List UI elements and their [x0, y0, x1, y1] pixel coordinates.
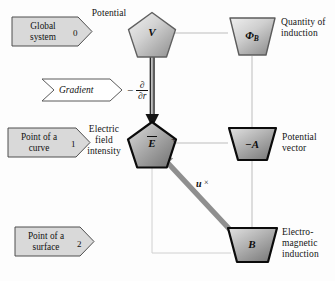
- e-glyph-overbar: E: [148, 137, 155, 149]
- label-quantity-of-induction: Quantity of induction: [281, 17, 335, 39]
- phi-subscript: B: [254, 34, 259, 43]
- gradient-minus-sign: −: [127, 84, 133, 96]
- gradient-operator-label: Gradient: [59, 85, 93, 95]
- node-electric-field-intensity-symbol: E: [132, 137, 172, 149]
- banner-point-of-a-surface-index: 2: [77, 239, 82, 249]
- banner-label-line1: Global: [30, 21, 55, 31]
- banner-point-of-a-curve-label: Point of a curve: [11, 132, 67, 153]
- label-potential-vector: Potential vector: [282, 132, 334, 154]
- label-u-cross: u ×: [196, 178, 209, 189]
- edge-b-to-e-thin: [152, 166, 231, 253]
- label-electric-field-intensity: Electric field intensity: [82, 124, 126, 157]
- plus-sign-at-e: +: [171, 134, 176, 144]
- fraction-numerator: ∂: [136, 80, 148, 91]
- banner-global-system-label: Global system: [16, 21, 70, 42]
- cross-product-glyph: ×: [204, 178, 209, 187]
- banner-label-line1: Point of a: [28, 231, 64, 241]
- banner-label-line2: curve: [29, 143, 50, 153]
- banner-point-of-a-surface-label: Point of a surface: [18, 231, 74, 252]
- banner-label-line2: surface: [33, 242, 60, 252]
- node-potential-vector-symbol: −A: [232, 138, 272, 150]
- banner-point-of-a-curve-index: 1: [71, 139, 76, 149]
- banner-label-line2: system: [30, 32, 56, 42]
- u-vector-glyph: u: [196, 178, 202, 189]
- banner-label-line1: Point of a: [21, 132, 57, 142]
- fraction-denominator: ∂r: [136, 91, 148, 102]
- node-potential-symbol: V: [132, 26, 172, 38]
- banner-global-system-index: 0: [73, 28, 78, 38]
- label-electromagnetic-induction: Electro- magnetic induction: [282, 227, 335, 260]
- edge-b-to-e-arrow: [159, 154, 235, 235]
- phi-glyph: Φ: [245, 29, 254, 41]
- node-quantity-of-induction-symbol: ΦB: [232, 29, 272, 43]
- diagram-canvas: Global system 0 Point of a curve 1 Point…: [0, 0, 335, 281]
- partial-derivative-fraction: ∂ ∂r: [136, 80, 148, 102]
- label-potential: Potential: [78, 8, 140, 19]
- node-electromagnetic-induction-symbol: B: [232, 238, 272, 250]
